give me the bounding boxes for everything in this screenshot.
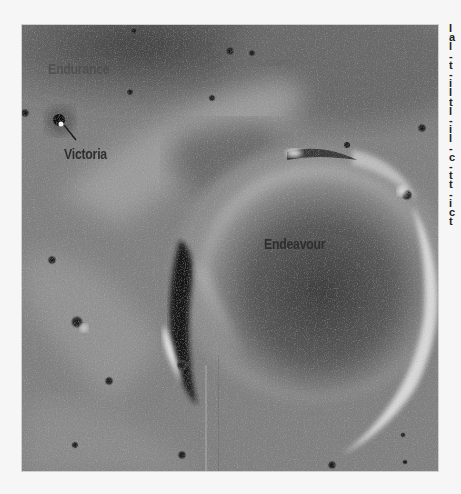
caption-fragment: i — [449, 125, 461, 134]
caption-fragment: c — [449, 208, 461, 217]
caption-fragment: t — [449, 171, 461, 180]
caption-fragment: - — [449, 162, 461, 171]
caption-fragment: - — [449, 116, 461, 125]
caption-fragment: c — [449, 153, 461, 162]
terrain-graphic — [22, 25, 439, 472]
caption-fragment: t — [449, 180, 461, 189]
caption-fragment: - — [449, 70, 461, 79]
endeavour-crater-label: Endeavour — [264, 235, 325, 252]
caption-fragment: i — [449, 199, 461, 208]
caption-fragment: t — [449, 98, 461, 107]
mars-terrain-image: Endurance Victoria Endeavour — [21, 24, 439, 472]
caption-fragment: i — [449, 79, 461, 88]
caption-fragment: t — [449, 217, 461, 226]
caption-fragment: a — [449, 33, 461, 42]
cropped-caption-text: I a l - t - i l t l - i l - c - t t - i … — [449, 24, 461, 294]
caption-fragment: - — [449, 52, 461, 61]
caption-fragment: l — [449, 88, 461, 97]
caption-fragment: - — [449, 190, 461, 199]
victoria-crater-label: Victoria — [64, 145, 107, 162]
caption-fragment: l — [449, 42, 461, 51]
caption-fragment: t — [449, 61, 461, 70]
caption-fragment: I — [449, 24, 461, 33]
endurance-crater-label: Endurance — [48, 60, 109, 77]
caption-fragment: l — [449, 134, 461, 143]
caption-fragment: - — [449, 144, 461, 153]
caption-fragment: l — [449, 107, 461, 116]
